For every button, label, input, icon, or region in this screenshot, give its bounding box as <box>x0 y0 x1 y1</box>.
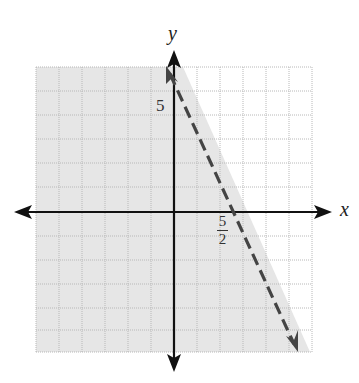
x-axis-label: x <box>340 198 349 221</box>
fraction-denominator: 2 <box>219 231 227 247</box>
y-intercept-label: 5 <box>156 96 165 116</box>
y-axis-label: y <box>168 22 177 45</box>
fraction-numerator: 5 <box>219 213 227 229</box>
x-intercept-label: 5 2 <box>217 214 228 247</box>
graph <box>0 0 359 383</box>
